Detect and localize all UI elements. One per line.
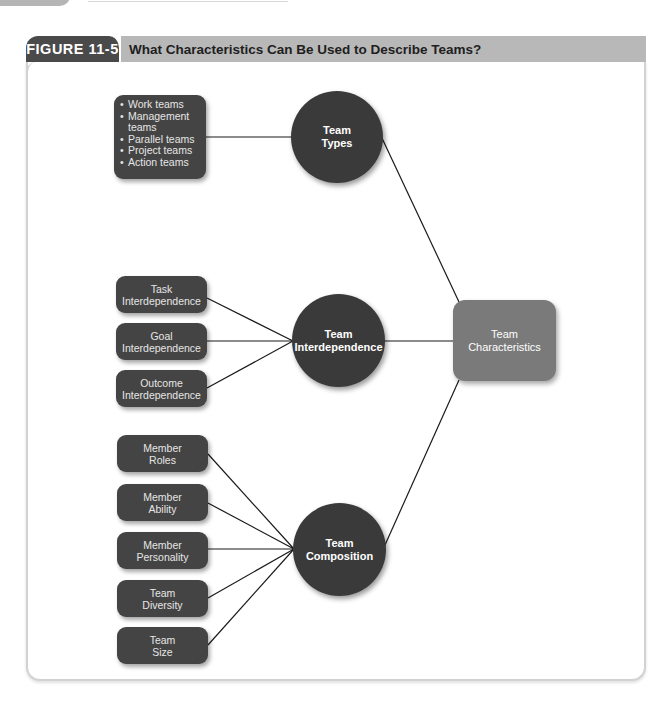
connector-ability <box>208 503 294 549</box>
box-label-line2: Size <box>152 646 172 658</box>
hub-team-types: Team Types <box>291 91 383 183</box>
box-label-line2: Roles <box>149 454 176 466</box>
box-label-line1: Team <box>150 587 176 599</box>
box-goal-interdependence: Goal Interdependence <box>116 323 207 360</box>
hub-label-line2: Interdependence <box>294 341 382 354</box>
box-label-line1: Member <box>143 491 182 503</box>
connector-size <box>208 549 294 645</box>
box-label-line1: Member <box>143 442 182 454</box>
central-node-team-characteristics: Team Characteristics <box>453 300 556 381</box>
box-label-line2: Interdependence <box>122 342 201 354</box>
box-label-line1: Member <box>143 539 182 551</box>
box-label-line2: Ability <box>148 503 176 515</box>
connector-roles <box>208 454 294 549</box>
team-types-list: Work teams Management teams Parallel tea… <box>114 95 206 179</box>
connector-diversity <box>208 549 294 598</box>
hub-label-line2: Composition <box>306 550 373 563</box>
hub-team-composition: Team Composition <box>293 503 386 596</box>
list-item: Action teams <box>120 157 206 169</box>
hub-team-interdependence: Team Interdependence <box>292 294 385 387</box>
connector-task <box>207 298 293 341</box>
box-outcome-interdependence: Outcome Interdependence <box>116 370 207 407</box>
central-label-line2: Characteristics <box>468 341 541 354</box>
box-label-line2: Diversity <box>142 599 182 611</box>
box-label-line1: Outcome <box>140 377 183 389</box>
central-label-line1: Team <box>491 328 518 341</box>
box-team-size: Team Size <box>117 627 208 664</box>
box-label-line1: Goal <box>150 330 172 342</box>
box-member-ability: Member Ability <box>117 484 208 521</box>
box-team-diversity: Team Diversity <box>117 580 208 617</box>
connector-outcome <box>207 341 293 388</box>
box-member-personality: Member Personality <box>117 532 208 569</box>
hub-label-line1: Team <box>326 537 354 550</box>
box-label-line1: Team <box>150 634 176 646</box>
connector-composition-central <box>385 380 459 545</box>
hub-label-line1: Team <box>325 328 353 341</box>
box-label-line2: Personality <box>137 551 189 563</box>
box-task-interdependence: Task Interdependence <box>116 276 207 313</box>
box-label-line2: Interdependence <box>122 389 201 401</box>
box-member-roles: Member Roles <box>117 435 208 472</box>
box-label-line1: Task <box>151 283 173 295</box>
hub-label-line1: Team <box>323 124 351 137</box>
box-label-line2: Interdependence <box>122 295 201 307</box>
hub-label-line2: Types <box>322 137 353 150</box>
list-item: Work teams <box>120 99 206 111</box>
connector-types-central <box>381 136 459 302</box>
